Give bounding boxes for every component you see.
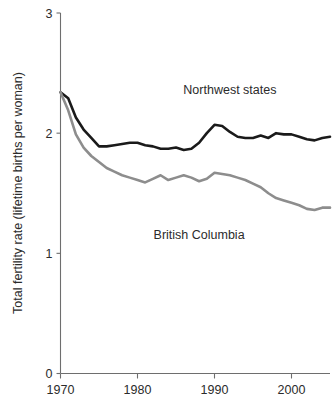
x-axis-ticks: [61, 374, 292, 379]
x-axis-tick-labels: 1970198019902000: [47, 383, 306, 397]
fertility-rate-line-chart: 0123 1970198019902000 Total fertility ra…: [0, 0, 336, 419]
y-axis-title: Total fertility rate (lifetime births pe…: [11, 72, 25, 314]
y-tick-label-3: 3: [46, 7, 53, 21]
series-group: [61, 92, 331, 210]
y-tick-label-1: 1: [46, 247, 53, 261]
series-line-northwest-states: [61, 92, 331, 150]
x-tick-label-1970: 1970: [47, 383, 75, 397]
series-label-british-columbia: British Columbia: [154, 228, 245, 242]
chart-canvas: 0123 1970198019902000 Total fertility ra…: [0, 0, 336, 419]
x-tick-label-1980: 1980: [124, 383, 152, 397]
y-axis-tick-labels: 0123: [46, 7, 53, 382]
y-tick-label-2: 2: [46, 127, 53, 141]
series-line-british-columbia: [61, 92, 331, 210]
y-tick-label-0: 0: [46, 367, 53, 381]
y-axis-ticks: [57, 13, 61, 374]
x-tick-label-2000: 2000: [278, 383, 306, 397]
series-label-northwest-states: Northwest states: [183, 83, 276, 97]
x-tick-label-1990: 1990: [201, 383, 229, 397]
